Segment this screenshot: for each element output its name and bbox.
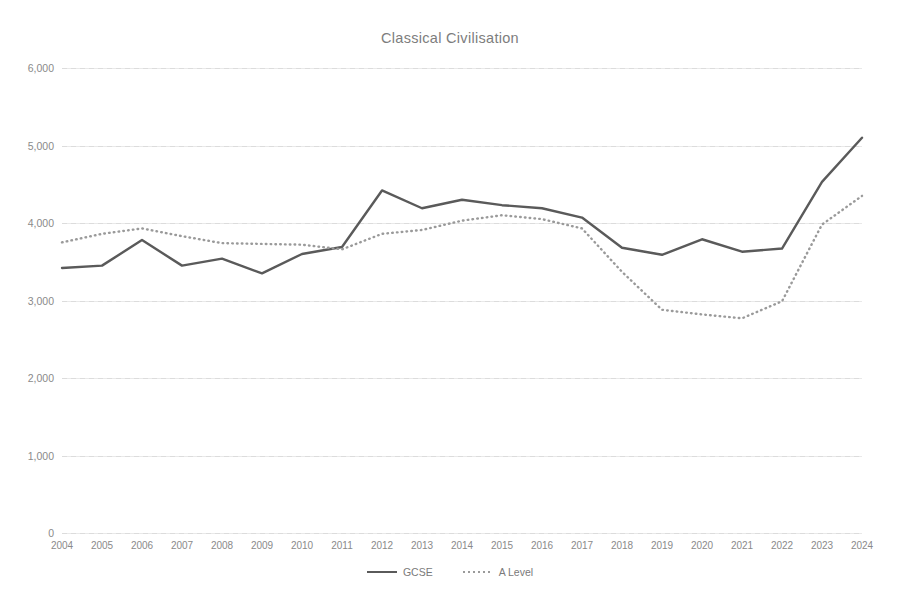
y-axis-tick-label: 0 (0, 527, 54, 539)
legend-swatch-icon (463, 571, 493, 573)
y-axis-tick-label: 6,000 (0, 62, 54, 74)
y-axis-tick-label: 4,000 (0, 217, 54, 229)
legend-label: A Level (499, 566, 533, 578)
y-axis-tick-label: 1,000 (0, 450, 54, 462)
y-axis-tick-label: 3,000 (0, 295, 54, 307)
legend-swatch-icon (367, 571, 397, 574)
series-line-gcse (62, 138, 862, 274)
y-gridline (62, 533, 862, 534)
chart-title: Classical Civilisation (0, 30, 900, 46)
series-line-a-level (62, 196, 862, 318)
legend-item-a-level[interactable]: A Level (463, 566, 533, 578)
chart-legend: GCSEA Level (0, 566, 900, 578)
y-axis-tick-label: 5,000 (0, 140, 54, 152)
series-layer (62, 68, 862, 533)
chart-container: Classical Civilisation GCSEA Level 01,00… (0, 0, 900, 608)
x-axis-tick-label: 2024 (839, 540, 885, 551)
legend-label: GCSE (403, 566, 433, 578)
legend-item-gcse[interactable]: GCSE (367, 566, 433, 578)
y-axis-tick-label: 2,000 (0, 372, 54, 384)
